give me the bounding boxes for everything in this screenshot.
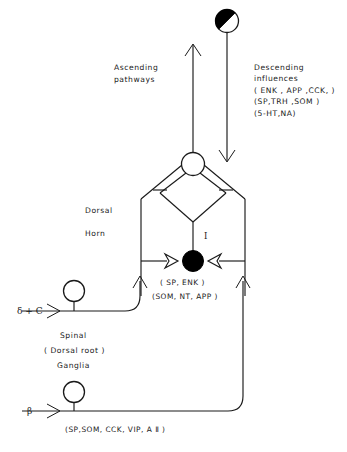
ganglia-label-line2: ( Dorsal root ) (44, 346, 105, 355)
dendrite-convergence-right (193, 193, 226, 222)
dorsal-horn-diagram: Ascending pathways Descending influences… (0, 0, 347, 452)
figure-canvas: Ascending pathways Descending influences… (0, 0, 347, 452)
ascending-pathways-label-line1: Ascending (114, 63, 158, 72)
descending-influences-label-line1: Descending (254, 63, 304, 72)
interneuron-transmitters-label-1: ( SP, ENK ) (160, 278, 205, 287)
drg-neuron-upper-soma (64, 281, 85, 302)
filled-circle-interneuron-soma (183, 251, 204, 272)
beta-transmitters-label: (SP,SOM, CCK, VIP, A Ⅱ ) (65, 425, 166, 434)
delta-c-fiber-label: δ + C (17, 306, 43, 316)
drg-neuron-lower-soma (64, 382, 85, 403)
ganglia-label-line1: Spinal (60, 331, 87, 340)
dendrite-convergence-left (160, 193, 193, 222)
ascending-pathway-group (185, 44, 201, 158)
ganglia-label-line3: Ganglia (57, 361, 90, 370)
beta-fiber-label: β (27, 406, 32, 416)
projection-neuron-group (153, 153, 233, 254)
lamina-one-label: I (204, 231, 207, 241)
descending-transmitters-line1: ( ENK , APP ,CCK, ) (254, 86, 335, 95)
open-circle-neuron-soma (182, 153, 205, 176)
descending-transmitters-line3: (5-HT,NA) (254, 109, 296, 118)
interneuron-group (141, 251, 245, 272)
beta-central-branch-curve (228, 281, 243, 411)
delta-c-central-branch-curve (125, 281, 140, 311)
descending-pathway-group (216, 10, 239, 163)
descending-influences-label-line2: influences (254, 74, 298, 83)
horn-label: Horn (85, 229, 105, 238)
ascending-pathways-label-line2: pathways (114, 75, 155, 84)
dorsal-label: Dorsal (85, 206, 113, 215)
interneuron-transmitters-label-2: (SOM, NT, APP ) (152, 292, 218, 301)
descending-transmitters-line2: (SP,TRH ,SOM ) (254, 97, 320, 106)
supraspinal-neuron-soma (216, 10, 239, 33)
